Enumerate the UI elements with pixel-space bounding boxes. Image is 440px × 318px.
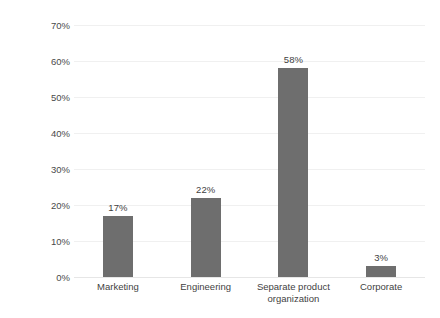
x-axis-category-label-line: Separate product xyxy=(252,281,336,293)
bar-value-label: 22% xyxy=(176,184,236,195)
x-axis-category-label-line: Corporate xyxy=(339,281,423,293)
y-axis-title: Percentage xyxy=(0,0,30,318)
bar[interactable] xyxy=(278,68,308,277)
bar-group: 17% xyxy=(74,25,162,277)
bar-group: 58% xyxy=(250,25,338,277)
bar[interactable] xyxy=(191,198,221,277)
y-axis-tick-label: 20% xyxy=(36,200,70,211)
bar-group: 3% xyxy=(337,25,425,277)
bar-value-label: 17% xyxy=(88,202,148,213)
bar-group: 22% xyxy=(162,25,250,277)
y-axis-tick-label: 30% xyxy=(36,164,70,175)
y-axis-tick-label: 60% xyxy=(36,56,70,67)
x-axis-category-labels: MarketingEngineeringSeparate productorga… xyxy=(74,281,425,305)
bar-value-label: 58% xyxy=(263,54,323,65)
y-axis-tick-label: 0% xyxy=(36,272,70,283)
plot-area: 17%22%58%3% xyxy=(74,25,425,277)
y-axis-tick-label: 10% xyxy=(36,236,70,247)
bar-value-label: 3% xyxy=(351,252,411,263)
bar-chart: Percentage 0%10%20%30%40%50%60%70% 17%22… xyxy=(0,0,440,318)
gridline xyxy=(74,277,425,278)
y-axis-tick-label: 70% xyxy=(36,20,70,31)
bars-layer: 17%22%58%3% xyxy=(74,25,425,277)
x-axis-category-label-line: Marketing xyxy=(76,281,160,293)
bar[interactable] xyxy=(366,266,396,277)
x-axis-category-label: Corporate xyxy=(337,281,425,305)
x-axis-category-label: Separate productorganization xyxy=(250,281,338,305)
x-axis-category-label-line: Engineering xyxy=(164,281,248,293)
x-axis-category-label: Engineering xyxy=(162,281,250,305)
bar[interactable] xyxy=(103,216,133,277)
y-axis-tick-label: 40% xyxy=(36,128,70,139)
x-axis-category-label: Marketing xyxy=(74,281,162,305)
y-axis-tick-labels: 0%10%20%30%40%50%60%70% xyxy=(36,25,70,277)
y-axis-tick-label: 50% xyxy=(36,92,70,103)
x-axis-category-label-line: organization xyxy=(252,293,336,305)
